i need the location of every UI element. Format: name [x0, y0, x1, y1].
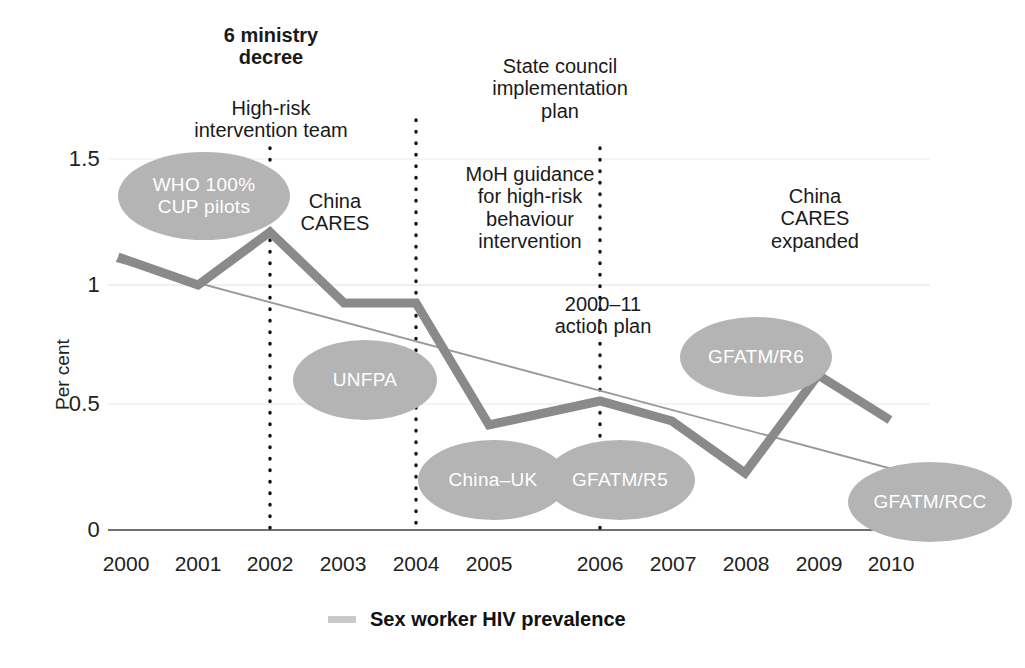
annotation-six-ministry-decree: 6 ministry decree — [180, 24, 362, 69]
annotation-china-cares: China CARES — [280, 190, 390, 235]
bubble-unfpa: UNFPA — [293, 340, 437, 420]
annotation-state-council-plan: State council implementation plan — [440, 55, 680, 122]
annotation-china-cares-expanded: China CARES expanded — [740, 185, 890, 252]
x-tick-2010: 2010 — [851, 552, 931, 576]
legend: Sex worker HIV prevalence — [328, 608, 626, 631]
y-axis-label: Per cent — [52, 339, 74, 410]
bubble-gfatm-r5: GFATM/R5 — [545, 440, 695, 520]
x-tick-2002: 2002 — [230, 552, 310, 576]
legend-label-prevalence: Sex worker HIV prevalence — [370, 608, 626, 631]
legend-swatch-prevalence — [328, 616, 356, 623]
x-tick-2007: 2007 — [633, 552, 713, 576]
bubble-gfatm-rcc: GFATM/RCC — [848, 462, 1012, 542]
x-tick-2003: 2003 — [303, 552, 383, 576]
x-tick-2000: 2000 — [86, 552, 166, 576]
annotation-moh-guidance: MoH guidance for high-risk behaviour int… — [428, 163, 632, 253]
bubble-who-cup-pilots: WHO 100% CUP pilots — [118, 152, 290, 240]
x-tick-2001: 2001 — [158, 552, 238, 576]
x-tick-2008: 2008 — [706, 552, 786, 576]
bubble-gfatm-r6: GFATM/R6 — [680, 317, 832, 397]
x-tick-2004: 2004 — [376, 552, 456, 576]
annotation-action-plan: 2000–11 action plan — [514, 293, 692, 338]
x-tick-2009: 2009 — [779, 552, 859, 576]
x-tick-2005: 2005 — [449, 552, 529, 576]
y-tick-1: 1 — [48, 272, 100, 298]
y-tick-1-5: 1.5 — [48, 146, 100, 172]
y-tick-0: 0 — [48, 517, 100, 543]
chart-root: 1.5 1 0.5 0 Per cent 2000 2001 2002 2003… — [0, 0, 1025, 668]
x-tick-2006: 2006 — [560, 552, 640, 576]
annotation-high-risk-team: High-risk intervention team — [163, 97, 379, 142]
